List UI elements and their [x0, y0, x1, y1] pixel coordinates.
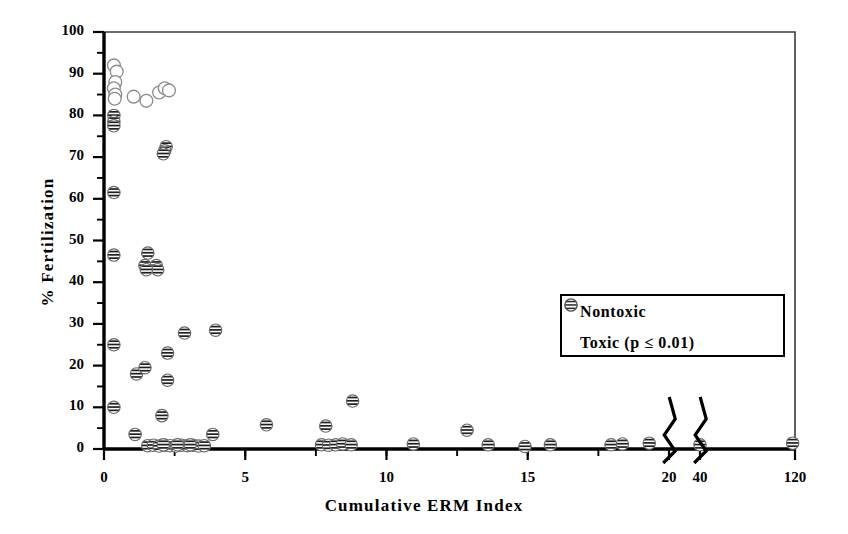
x-tick-label: 120 — [773, 469, 817, 486]
data-point — [160, 373, 175, 387]
x-tick-label: 5 — [223, 469, 267, 486]
y-tick-label: 0 — [38, 439, 84, 456]
legend-label-nontoxic: Nontoxic — [580, 303, 646, 321]
y-tick-label: 60 — [38, 189, 84, 206]
data-point — [108, 92, 121, 105]
x-tick-label: 10 — [365, 469, 409, 486]
y-tick-label: 10 — [38, 397, 84, 414]
data-point — [259, 418, 274, 432]
y-tick-label: 20 — [38, 356, 84, 373]
y-tick-label: 90 — [38, 64, 84, 81]
axes-layer — [93, 32, 795, 460]
data-point — [177, 326, 192, 340]
data-point — [163, 84, 176, 97]
data-point — [127, 90, 140, 103]
data-point — [154, 409, 169, 423]
x-tick-label: 0 — [82, 469, 126, 486]
data-point — [106, 338, 121, 352]
data-point — [517, 439, 532, 453]
data-point — [140, 94, 153, 107]
x-tick-label: 15 — [506, 469, 550, 486]
data-points-layer — [106, 59, 800, 454]
legend-label-toxic: Toxic (p ≤ 0.01) — [580, 334, 695, 352]
data-point — [208, 323, 223, 337]
chart-legend: Nontoxic Toxic (p ≤ 0.01) — [560, 294, 785, 357]
y-tick-label: 40 — [38, 272, 84, 289]
y-tick-label: 70 — [38, 147, 84, 164]
data-point — [106, 248, 121, 262]
data-point — [205, 427, 220, 441]
y-tick-label: 50 — [38, 231, 84, 248]
y-tick-label: 100 — [38, 22, 84, 39]
y-tick-label: 80 — [38, 105, 84, 122]
striped-circle-icon — [562, 296, 580, 314]
data-point — [106, 186, 121, 200]
data-point — [128, 427, 143, 441]
legend-item-nontoxic: Nontoxic — [562, 296, 783, 327]
data-point — [460, 423, 475, 437]
y-tick-label: 30 — [38, 314, 84, 331]
data-point — [160, 346, 175, 360]
x-axis-title: Cumulative ERM Index — [0, 496, 848, 516]
x-tick-label: 40 — [678, 469, 722, 486]
data-point — [140, 246, 155, 260]
legend-item-toxic: Toxic (p ≤ 0.01) — [562, 327, 783, 358]
scatter-plot-figure: Cumulative ERM Index % Fertilization 010… — [0, 0, 848, 534]
plot-canvas — [0, 0, 848, 534]
data-point — [345, 394, 360, 408]
data-point — [106, 400, 121, 414]
data-point — [318, 419, 333, 433]
